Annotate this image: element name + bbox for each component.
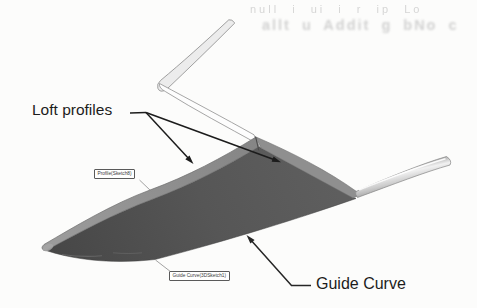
- callout-guide-curve-sketch: Guide Curve(3DSketch1): [169, 271, 230, 281]
- loft-leader-dash: [130, 113, 146, 114]
- callout-profile-sketch: Profile(Sketch8): [94, 169, 135, 179]
- cad-figure-canvas: [0, 0, 477, 308]
- callout-leader-profile: [140, 180, 152, 192]
- guide-curve-arrow: [250, 239, 312, 286]
- profile-outline-upper-arm: [157, 20, 234, 92]
- loft-arrow-left: [146, 113, 190, 160]
- guide-curve-label: Guide Curve: [316, 275, 406, 293]
- boom-tube: [356, 157, 451, 198]
- loft-arrow-right: [146, 113, 277, 161]
- scanned-figure-page: null i ui i r ip Lo allt u Addit g bNo c: [0, 0, 477, 308]
- loft-profiles-label: Loft profiles: [32, 101, 112, 119]
